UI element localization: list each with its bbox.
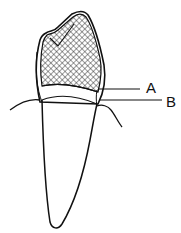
tooth-diagram xyxy=(0,0,181,233)
gingiva-right xyxy=(97,105,122,127)
label-a: A xyxy=(146,80,156,95)
gingiva-left xyxy=(10,100,40,110)
label-b: B xyxy=(166,94,176,109)
crown-hatched xyxy=(41,14,101,92)
root-outline xyxy=(42,100,97,228)
